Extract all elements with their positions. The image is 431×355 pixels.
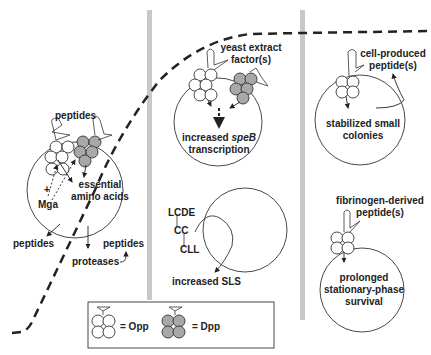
label-speb-prefix: increased — [182, 132, 231, 143]
label-proteases: proteases — [72, 256, 119, 268]
label-survival: survival — [318, 296, 410, 308]
legend-dpp-label: = Dpp — [192, 321, 220, 333]
label-transcription: transcription — [178, 144, 260, 156]
label-amino-acids: amino acids — [70, 191, 130, 203]
opp-transporter-right-bottom — [331, 232, 354, 254]
label-prolonged-survival: prolonged stationary-phase survival — [318, 272, 410, 308]
label-lcde: LCDE — [168, 207, 195, 219]
label-stationary-phase: stationary-phase — [318, 284, 410, 296]
label-cell-produced-peptides: cell-produced peptide(s) — [355, 48, 431, 72]
label-speb-line1: increased speB — [178, 132, 260, 144]
label-peptides-top: peptides — [55, 110, 96, 122]
label-peptides-right: peptide(s) — [355, 60, 431, 72]
label-essential: essential — [70, 179, 130, 191]
divider-right — [300, 10, 305, 320]
label-colonies: colonies — [320, 130, 406, 142]
label-stabilized-small-colonies: stabilized small colonies — [320, 118, 406, 142]
label-fibrinogen-derived-peptides: fibrinogen-derived peptide(s) — [330, 195, 430, 219]
label-essential-amino-acids: essential amino acids — [70, 179, 130, 203]
dpp-transporter-left — [74, 136, 101, 167]
label-yeast-extract: yeast extract — [216, 42, 286, 54]
label-plus: + — [44, 184, 50, 196]
label-cell-produced: cell-produced — [355, 48, 431, 60]
label-cc: CC — [174, 225, 188, 237]
cell-middle-bottom — [203, 188, 287, 272]
label-yeast-extract-factor: yeast extract factor(s) — [216, 42, 286, 66]
label-peptides-out-right: peptides — [103, 238, 144, 250]
opp-transporter-middle — [189, 69, 217, 101]
opp-transporter-right-top — [336, 76, 359, 98]
label-mga: Mga — [38, 199, 58, 211]
legend-opp-label: = Opp — [120, 321, 149, 333]
label-fib-peptides: peptide(s) — [330, 207, 430, 219]
label-speb-gene: speB — [232, 132, 256, 143]
label-increased-speb: increased speB transcription — [178, 132, 260, 156]
label-increased-sls: increased SLS — [172, 276, 241, 288]
label-peptides-out-left: peptides — [13, 238, 54, 250]
label-cll: CLL — [180, 244, 199, 256]
label-factor: factor(s) — [216, 54, 286, 66]
opp-transporter-left — [45, 141, 74, 175]
dpp-transporter-middle — [230, 73, 257, 104]
label-fibrinogen-derived: fibrinogen-derived — [330, 195, 430, 207]
divider-left — [147, 10, 152, 300]
label-stabilized-small: stabilized small — [320, 118, 406, 130]
label-prolonged: prolonged — [318, 272, 410, 284]
